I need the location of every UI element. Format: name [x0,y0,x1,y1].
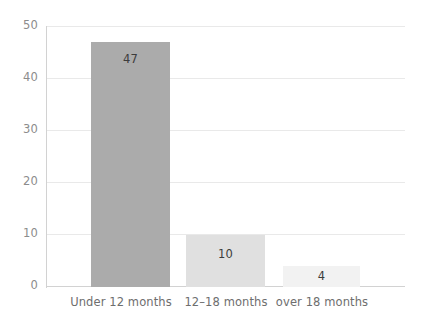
y-tick-label-0: 0 [8,280,38,292]
y-tick-label-10: 10 [8,228,38,240]
category-label-under-12-months: Under 12 months [61,296,181,310]
bar-chart: 47 10 4 50 40 30 20 10 0 Under 12 months… [0,0,426,326]
y-tick-label-40: 40 [8,72,38,84]
x-axis-category-labels: Under 12 months 12–18 months over 18 mon… [0,296,426,316]
y-tick-label-20: 20 [8,176,38,188]
y-tick-label-50: 50 [8,20,38,32]
category-label-over-18-months: over 18 months [262,296,382,310]
y-tick-label-30: 30 [8,124,38,136]
y-axis-tick-labels: 50 40 30 20 10 0 [0,0,426,326]
